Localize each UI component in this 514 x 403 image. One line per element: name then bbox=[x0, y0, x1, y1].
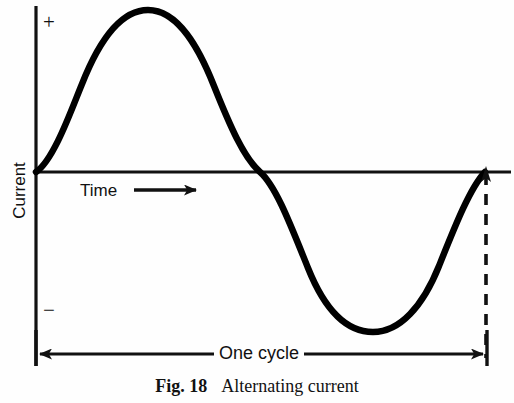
figure-alternating-current: Current + − Time One cycle Fig. 18Altern… bbox=[0, 0, 514, 403]
figure-caption: Fig. 18Alternating current bbox=[0, 376, 514, 397]
figure-number: Fig. 18 bbox=[155, 376, 207, 396]
figure-caption-text: Alternating current bbox=[221, 376, 358, 396]
x-axis-label: Time bbox=[80, 182, 117, 199]
negative-polarity-label: − bbox=[43, 300, 55, 321]
one-cycle-label: One cycle bbox=[214, 344, 304, 362]
y-axis-label: Current bbox=[11, 151, 28, 231]
positive-polarity-label: + bbox=[43, 12, 55, 33]
